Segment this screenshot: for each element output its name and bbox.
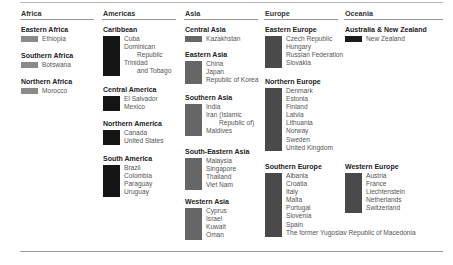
country-label: United States	[124, 137, 164, 145]
country-label: Latvia	[286, 111, 333, 119]
country-label: Cyprus	[206, 207, 229, 215]
country-label: Russian Federation	[286, 51, 343, 59]
asia-swatch	[185, 36, 202, 42]
country-label: Colombia	[124, 172, 152, 180]
country-label: Iran (Islamic	[206, 111, 254, 119]
group-northern-africa: Northern Africa Morocco	[21, 78, 72, 95]
group-title: Caribbean	[103, 26, 171, 34]
country-label: Lithuania	[286, 119, 333, 127]
column-title-europe: Europe	[265, 9, 290, 18]
country-label: Trinidad	[124, 59, 171, 67]
top-rule	[20, 2, 443, 3]
country-label: Switzerland	[366, 204, 405, 212]
country-label: and Tobago	[124, 67, 171, 75]
group-title: South-Eastern Asia	[185, 148, 249, 156]
country-label: Israel	[206, 215, 229, 223]
group-title: Northern Europe	[265, 78, 333, 86]
country-label: Japan	[206, 68, 258, 76]
asia-swatch	[185, 158, 202, 190]
country-label: Kazakhstan	[206, 35, 240, 43]
country-label: New Zealand	[366, 35, 427, 43]
group-title: Northern America	[103, 120, 164, 128]
column-title-asia: Asia	[185, 9, 200, 18]
country-label: Malaysia	[206, 157, 249, 165]
country-label: France	[366, 180, 405, 188]
country-label: Oman	[206, 231, 229, 239]
group-title: Western Europe	[345, 163, 405, 171]
americas-swatch	[103, 96, 120, 111]
country-label: United Kingdom	[286, 144, 333, 152]
group-southern-africa: Southern Africa Botswana	[21, 52, 73, 69]
country-label: Denmark	[286, 87, 333, 95]
country-label: Slovenia	[286, 212, 416, 220]
country-label: Czech Republic	[286, 35, 343, 43]
column-rule-americas	[102, 19, 176, 20]
africa-swatch	[21, 88, 38, 94]
country-label: Cuba	[124, 35, 171, 43]
group-title: South America	[103, 155, 152, 163]
group-western-europe: Western Europe Austria France Liechtenst…	[345, 163, 405, 212]
country-label: Republic of Korea	[206, 76, 258, 84]
country-label: Viet Nam	[206, 181, 249, 189]
group-title: Northern Africa	[21, 78, 72, 86]
group-south-eastern-asia: South-Eastern Asia Malaysia Singapore Th…	[185, 148, 249, 189]
column-rule-oceania	[344, 19, 443, 20]
asia-swatch	[185, 104, 202, 136]
group-title: Eastern Europe	[265, 26, 343, 34]
country-label: Botswana	[42, 61, 73, 69]
country-label: Ethiopia	[42, 35, 68, 43]
asia-swatch	[185, 61, 202, 84]
country-label: Brazil	[124, 164, 152, 172]
column-title-africa: Africa	[21, 9, 41, 18]
country-label: Paraguay	[124, 180, 152, 188]
americas-swatch	[103, 36, 120, 76]
asia-swatch	[185, 208, 202, 240]
country-label: Hungary	[286, 43, 343, 51]
americas-swatch	[103, 165, 120, 197]
europe-swatch	[265, 36, 282, 68]
country-label: Kuwait	[206, 223, 229, 231]
country-label: The former Yugoslav Republic of Macedoni…	[286, 229, 416, 237]
country-label: Singapore	[206, 165, 249, 173]
country-label: Austria	[366, 172, 405, 180]
column-rule-asia	[184, 19, 258, 20]
group-title: Australia & New Zealand	[345, 26, 427, 34]
country-label: Netherlands	[366, 196, 405, 204]
country-label: India	[206, 103, 254, 111]
group-caribbean: Caribbean Cuba Dominican Republic Trinid…	[103, 26, 171, 75]
bottom-rule	[20, 251, 443, 252]
country-label: Finland	[286, 103, 333, 111]
column-rule-europe	[264, 19, 338, 20]
americas-swatch	[103, 130, 120, 145]
column-rule-africa	[20, 19, 94, 20]
country-label: Liechtenstein	[366, 188, 405, 196]
europe-swatch	[265, 88, 282, 151]
country-label: El Salvador	[124, 95, 158, 103]
group-eastern-europe: Eastern Europe Czech Republic Hungary Ru…	[265, 26, 343, 67]
country-label: Spain	[286, 221, 416, 229]
oceania-swatch	[345, 36, 362, 42]
country-label: Maldives	[206, 127, 254, 135]
country-label: Republic of)	[206, 119, 254, 127]
europe-swatch	[345, 173, 362, 213]
group-northern-europe: Northern Europe Denmark Estonia Finland …	[265, 78, 333, 152]
column-title-americas: Americas	[103, 9, 135, 18]
group-title: Western Asia	[185, 198, 229, 206]
country-label: Uruguay	[124, 188, 152, 196]
africa-swatch	[21, 62, 38, 68]
country-label: Estonia	[286, 95, 333, 103]
europe-swatch	[265, 173, 282, 237]
group-title: Central America	[103, 86, 158, 94]
group-south-america: South America Brazil Colombia Paraguay U…	[103, 155, 152, 196]
group-title: Southern Asia	[185, 94, 254, 102]
group-title: Eastern Africa	[21, 26, 68, 34]
country-label: Thailand	[206, 173, 249, 181]
country-label: Republic	[124, 51, 171, 59]
group-australia-new-zealand: Australia & New Zealand New Zealand	[345, 26, 427, 43]
country-label: Norway	[286, 127, 333, 135]
country-label: China	[206, 60, 258, 68]
country-label: Morocco	[42, 87, 72, 95]
group-central-america: Central America El Salvador Mexico	[103, 86, 158, 111]
group-central-asia: Central Asia Kazakhstan	[185, 26, 240, 43]
group-eastern-africa: Eastern Africa Ethiopia	[21, 26, 68, 43]
